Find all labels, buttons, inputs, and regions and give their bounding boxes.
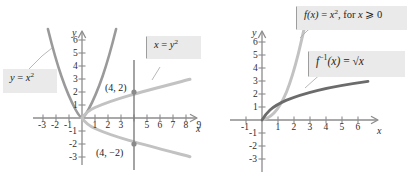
left-ytick--3: -3 <box>69 153 77 163</box>
right-ytick-5: 5 <box>253 51 258 61</box>
left-xtick-2: 2 <box>106 121 111 131</box>
curve-f-of-x-squared <box>262 29 304 120</box>
left-xtick--3: -3 <box>38 121 46 131</box>
callout-f-eq: = <box>321 9 327 20</box>
point-label-4-neg2: (4, −2) <box>96 148 123 158</box>
right-ytick-1: 1 <box>253 103 258 113</box>
callout-f-rel: ⩾ 0 <box>365 9 382 20</box>
right-xtick-3: 3 <box>308 123 313 133</box>
right-ytick-2: 2 <box>253 90 258 100</box>
callout-finv-arg: (x) <box>328 55 341 67</box>
curve-f-inverse-sqrt-x <box>262 81 368 120</box>
right-xtick-4: 4 <box>324 123 329 133</box>
right-xtick-5: 5 <box>340 123 345 133</box>
left-ytick--1: -1 <box>69 127 77 137</box>
right-xtick-2: 2 <box>292 123 297 133</box>
left-ytick-4: 4 <box>73 62 78 72</box>
right-xtick--1: -1 <box>241 123 249 133</box>
leader-x-equals-y-squared <box>152 67 160 80</box>
left-ytick-2: 2 <box>73 88 78 98</box>
callout-f-var: x <box>358 9 363 20</box>
callout-f-inverse: f−1(x) = √x <box>309 51 405 77</box>
left-ytick-1: 1 <box>73 101 78 111</box>
right-xtick-1: 1 <box>276 123 281 133</box>
callout-x-eq: = <box>161 39 167 50</box>
callout-finv-exp: −1 <box>319 53 327 62</box>
right-ytick--1: -1 <box>249 129 257 139</box>
left-ytick--2: -2 <box>69 140 77 150</box>
inverse-function-figure: y x -3 -2 -1 1 2 3 5 6 7 8 9 6 5 4 3 2 1… <box>0 0 410 186</box>
callout-f-arg: (x) <box>307 9 319 20</box>
callout-finv-eq: = <box>343 55 350 67</box>
right-ytick-6: 6 <box>253 38 258 48</box>
left-xtick--2: -2 <box>51 121 59 131</box>
callout-finv-radicand: x <box>359 55 364 67</box>
left-ytick-5: 5 <box>73 49 78 59</box>
callout-x-equals-y-squared: x = y2 <box>147 36 201 59</box>
right-ytick--2: -2 <box>249 142 257 152</box>
point-4-2 <box>131 89 136 94</box>
callout-y-lhs: y <box>10 72 15 83</box>
point-4-neg2 <box>131 141 136 146</box>
leader-y-equals-x-squared <box>28 48 52 70</box>
callout-x-lhs: x <box>154 39 159 50</box>
right-xtick-6: 6 <box>356 123 361 133</box>
callout-y-eq: = <box>17 72 23 83</box>
callout-y-equals-x-squared: y = x2 <box>3 69 57 93</box>
right-ytick--3: -3 <box>249 155 257 165</box>
left-xtick-1: 1 <box>93 121 98 131</box>
callout-f-tail: , for <box>338 9 356 20</box>
right-x-axis-label: x <box>377 126 381 136</box>
callout-f-of-x: f(x) = x2, for x ⩾ 0 <box>297 6 407 30</box>
point-label-4-2: (4, 2) <box>105 83 127 93</box>
left-xtick-9: 9 <box>197 121 202 131</box>
left-xtick-7: 7 <box>171 121 176 131</box>
callout-x-rhs-exp: 2 <box>175 38 179 46</box>
left-xtick-8: 8 <box>184 121 189 131</box>
left-ytick-6: 6 <box>73 36 78 46</box>
right-ytick-4: 4 <box>253 64 258 74</box>
left-xtick-3: 3 <box>119 121 124 131</box>
left-xtick-6: 6 <box>158 121 163 131</box>
right-ytick-3: 3 <box>253 77 258 87</box>
left-ytick-3: 3 <box>73 75 78 85</box>
left-xtick-5: 5 <box>145 121 150 131</box>
callout-y-rhs-exp: 2 <box>31 71 35 79</box>
